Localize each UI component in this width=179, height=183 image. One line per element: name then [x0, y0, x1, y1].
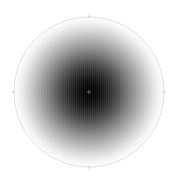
polar-intensity-plot	[0, 0, 179, 183]
